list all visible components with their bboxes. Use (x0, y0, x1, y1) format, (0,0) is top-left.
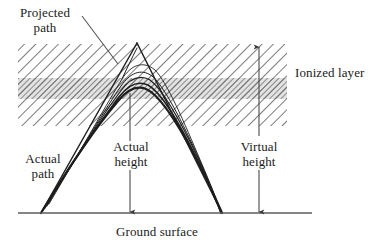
figure-canvas: Projected path Ionized layer Actual path… (0, 0, 375, 249)
label-virtual-height: Virtual height (241, 139, 278, 169)
label-ionized-layer: Ionized layer (295, 65, 365, 80)
label-projected-path-line2: path (20, 20, 70, 35)
label-actual-height-line2: height (113, 154, 148, 169)
label-actual-path: Actual path (25, 151, 60, 181)
label-actual-height-line1: Actual (113, 139, 148, 154)
label-actual-height: Actual height (113, 139, 148, 169)
label-ground-surface: Ground surface (116, 224, 198, 239)
label-projected-path: Projected path (20, 5, 70, 35)
diagram-graphics (0, 0, 375, 249)
label-projected-path-line1: Projected (20, 5, 70, 20)
label-virtual-height-line1: Virtual (241, 139, 278, 154)
ionized-layer-band (18, 44, 287, 126)
label-actual-path-line1: Actual (25, 151, 60, 166)
label-actual-path-line2: path (25, 166, 60, 181)
label-virtual-height-line2: height (241, 154, 278, 169)
